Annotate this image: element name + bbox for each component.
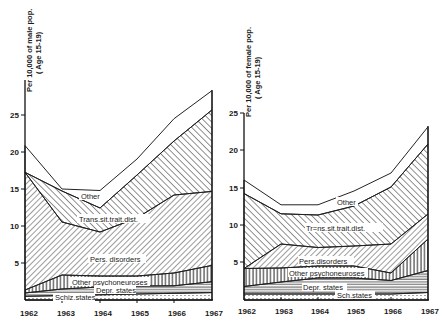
svg-text:Per 10,000 of female pop.: Per 10,000 of female pop.	[244, 27, 253, 117]
y-tick-label: 10	[229, 221, 238, 230]
svg-text:( Age 15-19): ( Age 15-19)	[253, 56, 262, 99]
x-tick-label: 1963	[275, 307, 293, 316]
x-tick-label: 1962	[20, 309, 38, 318]
x-tick-label: 1966	[384, 307, 402, 316]
label-schiz-states: Schiz.states	[55, 293, 96, 302]
svg-text:( Age 15-19): ( Age 15-19)	[34, 31, 43, 74]
y-tick-label: 5	[234, 258, 239, 267]
svg-text:Per 10,000 of male pop.: Per 10,000 of male pop.	[25, 9, 34, 92]
x-tick-label: 1964	[311, 307, 329, 316]
x-tick-label: 1963	[57, 309, 75, 318]
x-tick-label: 1967	[205, 309, 223, 318]
y-tick-label: 20	[229, 146, 238, 155]
y-tick-label: 15	[10, 185, 19, 194]
x-tick-label: 1964	[94, 309, 112, 318]
label-trans-sit: Trans.sit.trait.dist.	[79, 215, 138, 224]
x-tick-label: 1966	[168, 309, 186, 318]
y-tick-label: 10	[10, 222, 19, 231]
y-tick-label: 25	[10, 111, 19, 120]
y-tick-label: 15	[229, 184, 238, 193]
charts-canvas: 5 10 15 20 25 1962 1963 1964 1965 1966 1…	[0, 0, 442, 327]
y-tick-label: 5	[15, 259, 20, 268]
x-tick-label: 1967	[421, 307, 439, 316]
label-depr-states: Depr. states	[96, 286, 136, 295]
label-sch-states: Sch.states	[337, 291, 372, 300]
label-pers-disorders: Pers. disorders	[90, 255, 141, 264]
x-tick-label: 1965	[131, 309, 149, 318]
label-trans-sit: Tr=ns.sit.trait.dist.	[306, 224, 365, 233]
label-other: Other	[337, 198, 356, 207]
female-chart: 5 10 15 20 25 1962 1963 1964 1965 1966 1…	[229, 27, 439, 316]
x-tick-label: 1965	[347, 307, 365, 316]
label-other-psychoneuroses: Other psychoneuroses	[289, 269, 365, 278]
x-tick-label: 1962	[238, 307, 256, 316]
y-axis-label-female: Per 10,000 of female pop. ( Age 15-19)	[244, 27, 262, 117]
y-tick-label: 25	[229, 109, 238, 118]
y-axis-label-male: Per 10,000 of male pop. ( Age 15-19)	[25, 9, 43, 92]
y-tick-label: 20	[10, 148, 19, 157]
label-other: Other	[81, 192, 100, 201]
label-pers-disorders: Pers.disorders	[299, 257, 348, 266]
male-chart: 5 10 15 20 25 1962 1963 1964 1965 1966 1…	[10, 9, 223, 318]
